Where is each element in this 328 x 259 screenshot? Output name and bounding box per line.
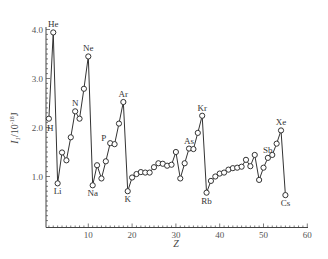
data-point-marker bbox=[178, 176, 183, 181]
data-point-marker bbox=[274, 141, 279, 146]
data-point-marker bbox=[252, 152, 257, 157]
y-axis-title: I1/10-18J bbox=[9, 112, 22, 145]
data-point-marker bbox=[121, 99, 126, 104]
data-point-marker bbox=[204, 190, 209, 195]
data-point-marker bbox=[173, 149, 178, 154]
element-label-as: As bbox=[184, 136, 194, 146]
element-label-na: Na bbox=[87, 188, 98, 198]
data-point-marker bbox=[191, 146, 196, 151]
data-point-marker bbox=[278, 128, 283, 133]
data-point-marker bbox=[147, 170, 152, 175]
element-label-sb: Sb bbox=[263, 145, 273, 155]
data-point-marker bbox=[86, 54, 91, 59]
element-label-k: K bbox=[124, 194, 131, 204]
axis-tick-labels: 1020304050601.02.03.04.0 bbox=[32, 25, 313, 240]
axis-ticks bbox=[46, 30, 307, 228]
y-tick-label: 1.0 bbox=[32, 172, 44, 182]
data-point-marker bbox=[283, 193, 288, 198]
data-point-marker bbox=[257, 177, 262, 182]
data-point-marker bbox=[73, 109, 78, 114]
y-tick-label: 3.0 bbox=[32, 74, 44, 84]
data-point-marker bbox=[112, 142, 117, 147]
data-point-marker bbox=[151, 165, 156, 170]
data-line bbox=[49, 32, 286, 195]
data-point-marker bbox=[51, 30, 56, 35]
data-point-marker bbox=[46, 116, 51, 121]
data-point-marker bbox=[248, 164, 253, 169]
data-point-marker bbox=[99, 176, 104, 181]
y-tick-label: 4.0 bbox=[32, 25, 44, 35]
element-label-ar: Ar bbox=[119, 89, 129, 99]
data-point-marker bbox=[68, 135, 73, 140]
data-point-marker bbox=[243, 157, 248, 162]
data-markers bbox=[46, 30, 288, 198]
data-point-marker bbox=[59, 150, 64, 155]
data-point-marker bbox=[94, 163, 99, 168]
element-label-he: He bbox=[48, 19, 59, 29]
element-label-ne: Ne bbox=[83, 43, 94, 53]
data-point-marker bbox=[239, 164, 244, 169]
element-label-rb: Rb bbox=[201, 196, 212, 206]
element-label-li: Li bbox=[54, 186, 62, 196]
element-label-kr: Kr bbox=[197, 103, 207, 113]
ionization-energy-line bbox=[49, 32, 286, 195]
element-labels: HHeLiNNeNaPArKAsKrRbSbXeCs bbox=[47, 19, 291, 208]
svg-text:I1/10-18J: I1/10-18J bbox=[9, 112, 22, 145]
y-tick-label: 2.0 bbox=[32, 123, 44, 133]
data-point-marker bbox=[182, 161, 187, 166]
data-point-marker bbox=[90, 183, 95, 188]
element-label-h: H bbox=[47, 123, 54, 133]
x-axis-title: Z bbox=[173, 238, 179, 249]
element-label-p: P bbox=[101, 133, 106, 143]
data-point-marker bbox=[103, 159, 108, 164]
data-point-marker bbox=[195, 130, 200, 135]
element-label-n: N bbox=[72, 98, 79, 108]
data-point-marker bbox=[125, 189, 130, 194]
data-point-marker bbox=[64, 158, 69, 163]
data-point-marker bbox=[208, 178, 213, 183]
x-tick-label: 10 bbox=[84, 230, 94, 240]
x-tick-label: 40 bbox=[215, 230, 225, 240]
data-point-marker bbox=[116, 121, 121, 126]
data-point-marker bbox=[169, 162, 174, 167]
data-point-marker bbox=[55, 181, 60, 186]
data-point-marker bbox=[261, 165, 266, 170]
data-point-marker bbox=[81, 86, 86, 91]
element-label-cs: Cs bbox=[281, 198, 291, 208]
x-tick-label: 20 bbox=[128, 230, 138, 240]
element-label-xe: Xe bbox=[276, 117, 287, 127]
ionization-energy-chart: 1020304050601.02.03.04.0 HHeLiNNeNaPArKA… bbox=[0, 0, 328, 259]
data-point-marker bbox=[77, 116, 82, 121]
x-tick-label: 60 bbox=[303, 230, 313, 240]
data-point-marker bbox=[200, 113, 205, 118]
x-tick-label: 50 bbox=[259, 230, 269, 240]
